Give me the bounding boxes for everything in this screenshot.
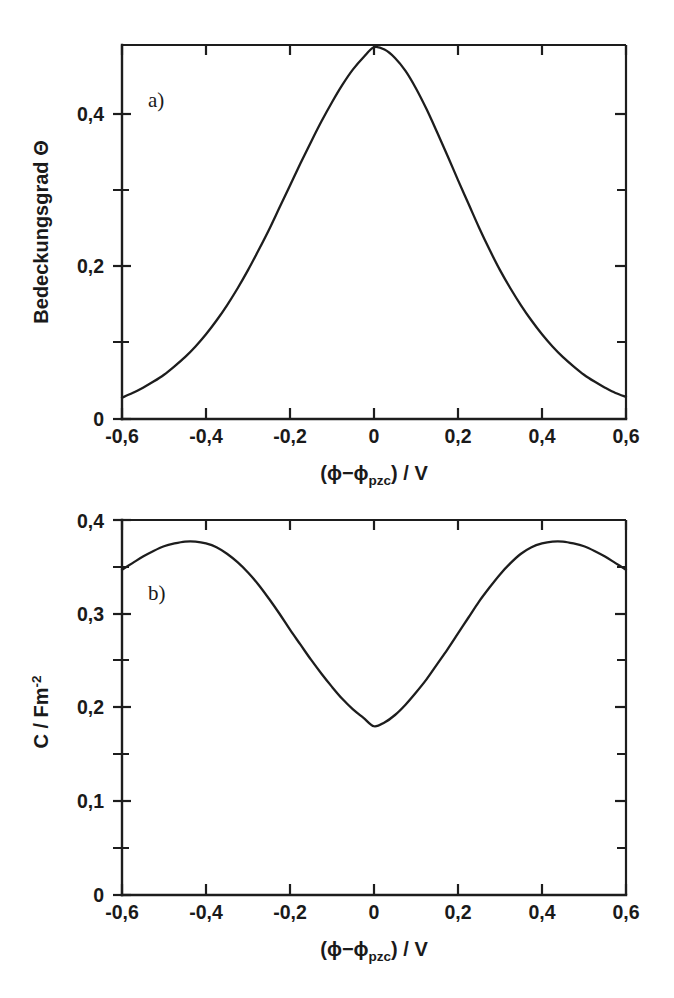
x-axis-title-b-suffix: ) / V [391, 938, 428, 960]
x-axis-title-b-sub: pzc [369, 949, 392, 964]
x-tick-label-b-0: -0,6 [105, 901, 139, 923]
x-tick-label-a-3: 0 [369, 425, 380, 447]
x-axis-title-a: (ϕ−ϕpzc) / V [320, 462, 428, 488]
y-axis-ticks-b [113, 520, 626, 895]
x-tick-label-a-4: 0,2 [444, 425, 471, 447]
svg-text:(ϕ−ϕpzc) / V: (ϕ−ϕpzc) / V [320, 938, 428, 964]
x-tick-label-b-1: -0,4 [189, 901, 223, 923]
x-axis-title-a-suffix: ) / V [391, 462, 428, 484]
x-tick-label-a-5: 0,4 [528, 425, 555, 447]
y-tick-label-b-4: 0,4 [77, 510, 104, 532]
svg-text:Bedeckungsgrad Θ: Bedeckungsgrad Θ [30, 140, 52, 323]
plot-frame-a [122, 45, 626, 419]
x-tick-label-a-2: -0,2 [273, 425, 307, 447]
plot-frame-b [122, 520, 626, 895]
x-tick-label-b-5: 0,4 [528, 901, 555, 923]
x-tick-label-a-6: 0,6 [612, 425, 639, 447]
chart-a-svg: 0 0,2 0,4 -0,6 -0,4 -0,2 0 0,2 0,4 0,6 (… [0, 0, 674, 500]
y-axis-title-a: Bedeckungsgrad Θ [30, 140, 52, 323]
chart-b-svg: 0 0,1 0,2 0,3 0,4 -0,6 -0,4 -0,2 0 0,2 0… [0, 490, 674, 998]
x-axis-title-a-sub: pzc [369, 473, 392, 488]
x-tick-label-b-3: 0 [369, 901, 380, 923]
y-axis-title-b-prefix: C / Fm [30, 687, 52, 748]
x-axis-ticks-a [122, 45, 626, 419]
data-curve-a [122, 47, 626, 398]
chart-panel-b: 0 0,1 0,2 0,3 0,4 -0,6 -0,4 -0,2 0 0,2 0… [0, 490, 674, 998]
x-tick-label-b-6: 0,6 [612, 901, 639, 923]
y-tick-label-b-0: 0 [93, 884, 104, 906]
svg-text:(ϕ−ϕpzc) / V: (ϕ−ϕpzc) / V [320, 462, 428, 488]
y-tick-label-a-2: 0,4 [77, 103, 104, 125]
y-axis-title-b-sup: -2 [29, 675, 44, 687]
x-axis-title-b: (ϕ−ϕpzc) / V [320, 938, 428, 964]
y-axis-title-b: C / Fm-2 [29, 675, 52, 748]
x-tick-label-b-4: 0,2 [444, 901, 471, 923]
svg-text:C / Fm-2: C / Fm-2 [29, 675, 52, 748]
y-axis-ticks-a [113, 114, 626, 419]
x-axis-title-b-prefix: (ϕ−ϕ [320, 938, 368, 960]
y-tick-label-a-0: 0 [93, 408, 104, 430]
x-tick-label-b-2: -0,2 [273, 901, 307, 923]
x-axis-ticks-b [122, 520, 626, 895]
x-axis-title-a-prefix: (ϕ−ϕ [320, 462, 368, 484]
x-tick-label-a-1: -0,4 [189, 425, 223, 447]
y-tick-label-b-1: 0,1 [77, 790, 104, 812]
data-curve-b [122, 541, 626, 726]
y-tick-label-b-3: 0,3 [77, 603, 104, 625]
figure-container: 0 0,2 0,4 -0,6 -0,4 -0,2 0 0,2 0,4 0,6 (… [0, 0, 674, 998]
x-tick-label-a-0: -0,6 [105, 425, 139, 447]
chart-panel-a: 0 0,2 0,4 -0,6 -0,4 -0,2 0 0,2 0,4 0,6 (… [0, 0, 674, 500]
panel-tag-a: a) [148, 88, 164, 112]
y-tick-label-b-2: 0,2 [77, 696, 104, 718]
y-tick-label-a-1: 0,2 [77, 255, 104, 277]
panel-tag-b: b) [148, 581, 166, 605]
